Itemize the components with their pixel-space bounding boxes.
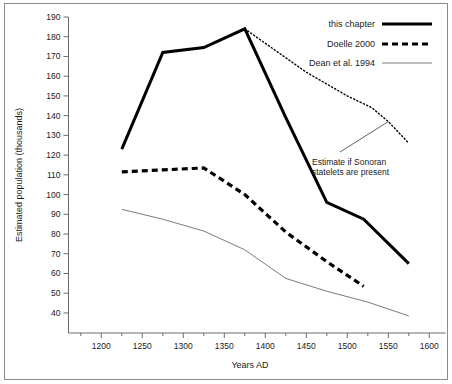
x-tick-label: 1550 [379, 341, 398, 351]
series-line [122, 168, 364, 286]
x-tick-label: 1600 [420, 341, 439, 351]
x-tick-label: 1250 [133, 341, 152, 351]
y-axis: 4050607080901001101201301401501601701801… [46, 12, 68, 333]
y-tick-label: 50 [51, 288, 61, 298]
x-tick-label: 1400 [256, 341, 275, 351]
x-tick-label: 1200 [92, 341, 111, 351]
x-axis: 120012501300135014001450150015501600 [69, 333, 446, 351]
y-tick-label: 80 [51, 229, 61, 239]
series-line [122, 209, 409, 316]
y-axis-title: Estimated population (thousands) [14, 108, 24, 242]
legend-label: Dean et al. 1994 [309, 58, 375, 68]
y-tick-label: 160 [46, 71, 60, 81]
x-tick-label: 1350 [215, 341, 234, 351]
y-tick-label: 180 [46, 32, 60, 42]
y-tick-label: 110 [47, 170, 61, 180]
x-tick-label: 1450 [297, 341, 316, 351]
annotation-leader [340, 122, 388, 152]
chart-figure: 4050607080901001101201301401501601701801… [0, 0, 452, 384]
population-line-chart: 4050607080901001101201301401501601701801… [0, 0, 452, 384]
y-tick-label: 190 [46, 12, 60, 22]
annotation-text-line1: Estimate if Sonoran [312, 157, 386, 167]
x-axis-title: Years AD [231, 360, 269, 370]
chart-legend: this chapterDoelle 2000Dean et al. 1994 [309, 19, 432, 68]
y-tick-label: 100 [46, 190, 60, 200]
y-tick-label: 70 [51, 249, 61, 259]
y-tick-label: 90 [51, 209, 61, 219]
x-tick-label: 1300 [174, 341, 193, 351]
legend-label: this chapter [328, 19, 375, 29]
annotation-leader-line: Estimate if Sonoranstatelets are present [312, 122, 390, 177]
y-tick-label: 170 [46, 51, 60, 61]
y-tick-label: 60 [51, 268, 61, 278]
y-tick-label: 40 [51, 308, 61, 318]
x-tick-label: 1500 [338, 341, 357, 351]
annotation-text-line2: statelets are present [312, 167, 390, 177]
y-tick-label: 150 [46, 91, 60, 101]
y-tick-label: 120 [46, 150, 60, 160]
y-tick-label: 140 [46, 111, 60, 121]
y-tick-label: 130 [46, 130, 60, 140]
legend-label: Doelle 2000 [327, 39, 375, 49]
